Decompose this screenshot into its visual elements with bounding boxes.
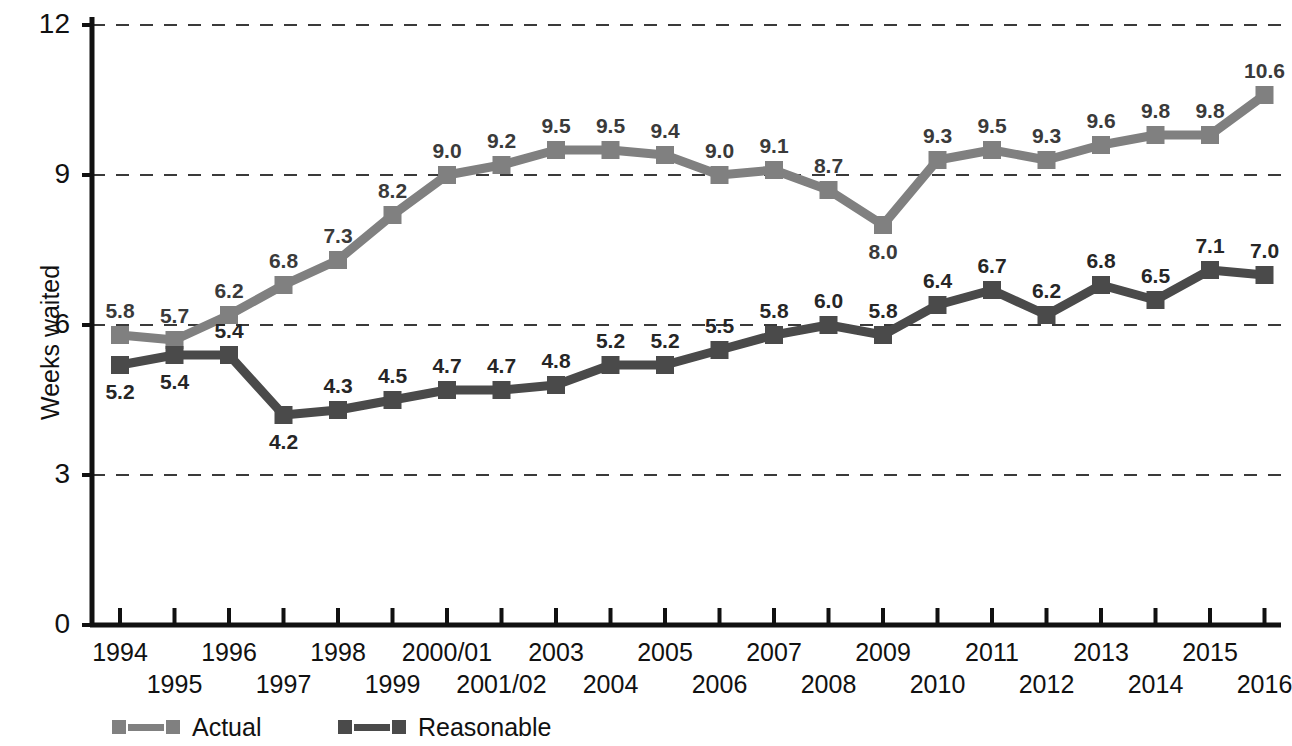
legend-item-reasonable[interactable]: Reasonable [338,712,551,742]
data-point-marker [929,151,947,169]
point-label-actual-2014: 9.8 [1141,100,1170,121]
data-point-marker [384,391,402,409]
x-tick-label-2012: 2012 [1019,672,1075,697]
legend-marker-icon [392,720,406,734]
data-point-marker [1092,276,1110,294]
point-label-actual-1996: 6.2 [214,280,243,301]
data-point-marker [329,251,347,269]
point-label-reasonable-2014: 6.5 [1141,265,1170,286]
x-tick-label-2004: 2004 [583,672,639,697]
point-label-reasonable-2001-02: 4.7 [487,355,516,376]
point-label-actual-2015: 9.8 [1195,100,1224,121]
x-tick-label-2009: 2009 [855,640,911,665]
point-label-actual-2006: 9.0 [705,140,734,161]
data-point-marker [220,346,238,364]
x-tick-label-2011: 2011 [965,640,1019,665]
y-tick-label-6: 6 [8,310,70,338]
point-label-actual-2008: 8.7 [814,155,843,176]
data-point-marker [1092,136,1110,154]
y-tick-label-3: 3 [8,460,70,488]
data-point-marker [820,181,838,199]
data-point-marker [711,341,729,359]
y-tick-label-9: 9 [8,160,70,188]
x-tick-label-2014: 2014 [1128,672,1184,697]
x-tick-label-2003: 2003 [528,640,584,665]
data-point-marker [493,381,511,399]
legend-label: Actual [192,713,261,742]
data-point-marker [547,376,565,394]
data-point-marker [384,206,402,224]
data-point-marker [438,381,456,399]
data-point-marker [656,356,674,374]
point-label-reasonable-2011: 6.7 [977,255,1006,276]
data-point-marker [983,281,1001,299]
data-point-marker [874,326,892,344]
point-label-reasonable-2013: 6.8 [1086,250,1115,271]
data-point-marker [711,166,729,184]
point-label-actual-2003: 9.5 [541,115,570,136]
data-point-marker [275,276,293,294]
data-point-marker [547,141,565,159]
point-label-actual-2013: 9.6 [1086,110,1115,131]
point-label-actual-2001-02: 9.2 [487,130,516,151]
data-point-marker [329,401,347,419]
point-label-actual-1994: 5.8 [105,300,134,321]
x-tick-label-2013: 2013 [1073,640,1129,665]
legend-item-actual[interactable]: Actual [112,712,261,742]
legend-label: Reasonable [418,713,551,742]
data-point-marker [1038,151,1056,169]
legend-line-icon [128,724,164,731]
point-label-actual-2000-01: 9.0 [432,140,461,161]
legend-marker-icon [166,720,180,734]
point-label-actual-2011: 9.5 [977,115,1006,136]
point-label-reasonable-2010: 6.4 [923,270,952,291]
point-label-actual-1998: 7.3 [323,225,352,246]
legend-marker-icon [112,720,126,734]
data-point-marker [820,316,838,334]
point-label-reasonable-2008: 6.0 [814,290,843,311]
point-label-actual-2004: 9.5 [596,115,625,136]
x-tick-label-2015: 2015 [1182,640,1238,665]
point-label-actual-2009: 8.0 [868,241,897,262]
point-label-actual-1995: 5.7 [160,305,189,326]
data-point-marker [602,141,620,159]
data-point-marker [765,326,783,344]
point-label-actual-2012: 9.3 [1032,125,1061,146]
y-tick-label-12: 12 [8,10,70,38]
data-point-marker [874,216,892,234]
x-tick-label-2010: 2010 [910,672,966,697]
point-label-reasonable-1996: 5.4 [214,320,243,341]
point-label-reasonable-1997: 4.2 [269,431,298,452]
point-label-reasonable-2005: 5.2 [650,330,679,351]
point-label-reasonable-1994: 5.2 [105,381,134,402]
x-tick-label-2007: 2007 [746,640,802,665]
point-label-actual-2010: 9.3 [923,125,952,146]
point-label-reasonable-1995: 5.4 [160,371,189,392]
point-label-reasonable-2012: 6.2 [1032,280,1061,301]
data-point-marker [1147,291,1165,309]
y-axis-title: Weeks waited [36,265,65,420]
x-tick-label-1996: 1996 [201,640,257,665]
point-label-reasonable-2016: 7.0 [1250,240,1279,261]
point-label-reasonable-2006: 5.5 [705,315,734,336]
x-tick-label-1995: 1995 [147,672,203,697]
x-tick-label-1997: 1997 [256,672,312,697]
data-point-marker [111,356,129,374]
x-tick-label-2001-02: 2001/02 [456,672,546,697]
data-point-marker [111,326,129,344]
x-tick-label-2016: 2016 [1237,672,1292,697]
point-label-actual-1999: 8.2 [378,180,407,201]
x-tick-label-1994: 1994 [92,640,148,665]
point-label-actual-2007: 9.1 [759,135,788,156]
data-point-marker [166,346,184,364]
data-point-marker [765,161,783,179]
point-label-reasonable-1999: 4.5 [378,365,407,386]
data-point-marker [275,406,293,424]
data-point-marker [1256,86,1274,104]
point-label-reasonable-2003: 4.8 [541,350,570,371]
x-tick-label-1999: 1999 [365,672,421,697]
point-label-reasonable-2007: 5.8 [759,300,788,321]
point-label-actual-2016: 10.6 [1244,60,1285,81]
point-label-reasonable-2015: 7.1 [1195,235,1224,256]
